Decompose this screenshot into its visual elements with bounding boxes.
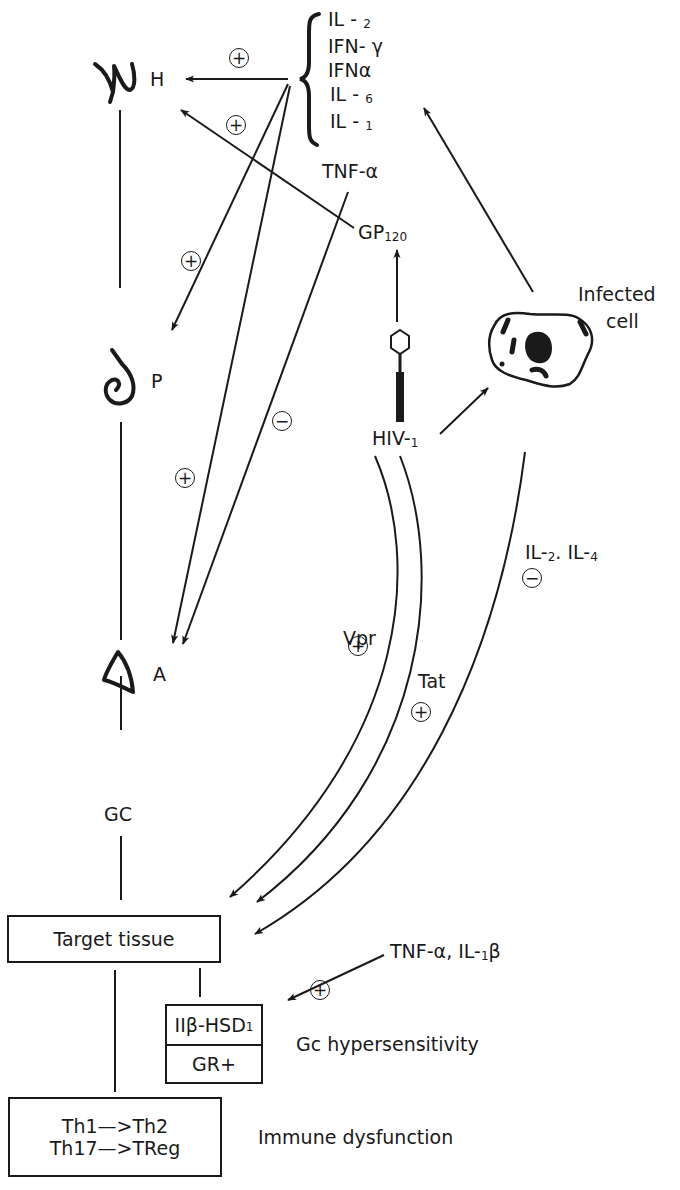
cytokine-item: IL - 2	[328, 7, 383, 34]
th1-th2-label: Th1—>Th2	[62, 1115, 168, 1137]
plus-sign-icon: +	[175, 468, 195, 488]
hiv-virus-icon	[391, 330, 409, 422]
hsd-gr-box: IIβ-HSD1 GR+	[165, 1004, 263, 1084]
il2-il4-label: IL-2. IL-4	[525, 541, 598, 566]
tnf-il1b-label: TNF-α, IL-1β	[390, 940, 501, 965]
arrow-tnf-to-a	[183, 192, 348, 644]
infected-cell-label-line1: Infected	[578, 283, 656, 305]
hpa-hiv-diagram: H P A GC IL - 2 IFN- γ IFNα IL - 6 IL - …	[0, 0, 680, 1190]
th17-treg-label: Th17—>TReg	[50, 1137, 180, 1159]
cytokine-item: IL - 6	[328, 82, 383, 109]
curve-tat	[257, 456, 422, 902]
cytokine-item: IL - 1	[328, 109, 383, 136]
plus-sign-icon: +	[181, 251, 201, 271]
pituitary-icon	[106, 350, 134, 403]
infected-cell-icon	[489, 313, 592, 386]
hiv1-label: HIV-1	[372, 427, 418, 452]
arrow-cytokines-to-a	[173, 86, 290, 643]
minus-sign-icon: −	[522, 568, 542, 588]
minus-sign-icon: −	[272, 411, 292, 431]
curve-il2-il4	[255, 452, 525, 934]
arrow-cell-to-cytokines	[424, 108, 533, 292]
gr-cell: GR+	[167, 1046, 261, 1082]
gp120-label: GP120	[358, 221, 407, 246]
plus-sign-icon: +	[229, 48, 249, 68]
hsd-cell: IIβ-HSD1	[167, 1006, 261, 1046]
plus-sign-icon: +	[348, 636, 368, 656]
hypothalamus-icon	[95, 64, 134, 102]
tat-label: Tat	[418, 670, 446, 692]
adrenal-label: A	[153, 663, 166, 685]
th-shift-box: Th1—>Th2 Th17—>TReg	[8, 1097, 222, 1177]
plus-sign-icon: +	[310, 980, 330, 1000]
cytokine-item: IFN- γ	[328, 34, 383, 58]
gc-hypersensitivity-label: Gc hypersensitivity	[296, 1033, 479, 1055]
cytokine-list: IL - 2 IFN- γ IFNα IL - 6 IL - 1	[328, 7, 383, 136]
infected-cell-label-line2: cell	[606, 310, 639, 332]
arrow-tnf-il1b-to-hsd	[288, 955, 384, 1000]
adrenal-icon	[104, 652, 133, 692]
immune-dysfunction-label: Immune dysfunction	[258, 1126, 453, 1148]
cytokine-brace	[300, 14, 319, 145]
arrow-hiv-to-cell	[440, 388, 488, 434]
gc-label: GC	[104, 803, 132, 825]
plus-sign-icon: +	[411, 702, 431, 722]
hypothalamus-label: H	[150, 68, 164, 90]
target-tissue-label: Target tissue	[53, 928, 174, 950]
target-tissue-box: Target tissue	[7, 915, 221, 963]
tnf-alpha-label: TNF-α	[322, 160, 378, 182]
curve-vpr	[230, 456, 398, 897]
plus-sign-icon: +	[226, 115, 246, 135]
cytokine-item: IFNα	[328, 58, 383, 82]
pituitary-label: P	[151, 370, 162, 392]
